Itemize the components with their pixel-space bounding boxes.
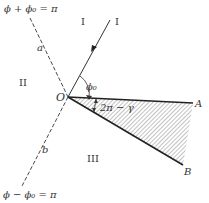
boundary-label-b: b <box>42 144 48 155</box>
equation-bottom: ϕ − ϕ₀ = π <box>3 189 57 200</box>
wedge-diffraction-diagram: ϕ + ϕ₀ = π ϕ − ϕ₀ = π I I II III a b O A… <box>0 0 209 203</box>
boundary-a <box>30 18 68 97</box>
point-label-O: O <box>56 91 65 104</box>
region-label-III: III <box>87 153 99 164</box>
equation-top: ϕ + ϕ₀ = π <box>4 3 58 14</box>
angle-label-phi0: ϕ₀ <box>86 81 97 92</box>
boundary-label-a: a <box>37 42 43 53</box>
angle-label-wedge: 2π − γ <box>99 102 134 113</box>
region-label-I-right: I <box>115 16 119 27</box>
region-label-II: II <box>19 77 27 88</box>
point-label-B: B <box>183 166 191 177</box>
region-label-I-left: I <box>81 16 85 27</box>
boundary-b <box>22 97 68 186</box>
point-label-A: A <box>194 98 202 109</box>
